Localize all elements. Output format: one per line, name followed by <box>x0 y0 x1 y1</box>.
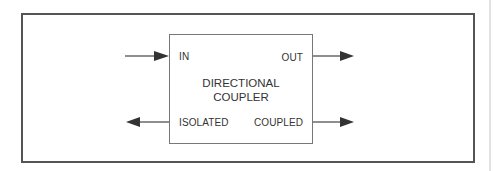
port-label-coupled: COUPLED <box>254 117 303 128</box>
port-label-out: OUT <box>282 52 303 63</box>
isolated-arrow-icon <box>126 117 169 127</box>
port-label-in: IN <box>179 51 189 62</box>
block-title-line2: COUPLER <box>170 90 312 104</box>
directional-coupler-block: IN OUT DIRECTIONAL COUPLER ISOLATED COUP… <box>169 34 313 144</box>
block-title-line1: DIRECTIONAL <box>170 76 312 90</box>
in-arrow-icon <box>125 51 169 61</box>
out-arrow-icon <box>312 51 354 61</box>
block-title: DIRECTIONAL COUPLER <box>170 76 312 104</box>
coupled-arrow-icon <box>312 117 354 127</box>
port-label-isolated: ISOLATED <box>179 117 229 128</box>
